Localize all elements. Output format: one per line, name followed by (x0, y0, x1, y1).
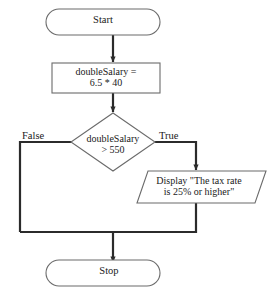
decision-diamond-shape (71, 113, 155, 171)
start-terminal-shape (46, 9, 160, 35)
flowchart-canvas: Start doubleSalary =6.5 * 40 doubleSalar… (0, 0, 273, 295)
connector-output-to-join (20, 203, 196, 232)
connector-true-branch (155, 142, 196, 170)
output-parallelogram-shape (137, 171, 266, 203)
flowchart-svg (0, 0, 273, 295)
stop-terminal-shape (46, 260, 160, 286)
connector-false-branch (20, 142, 72, 232)
process-box-shape (52, 63, 160, 93)
